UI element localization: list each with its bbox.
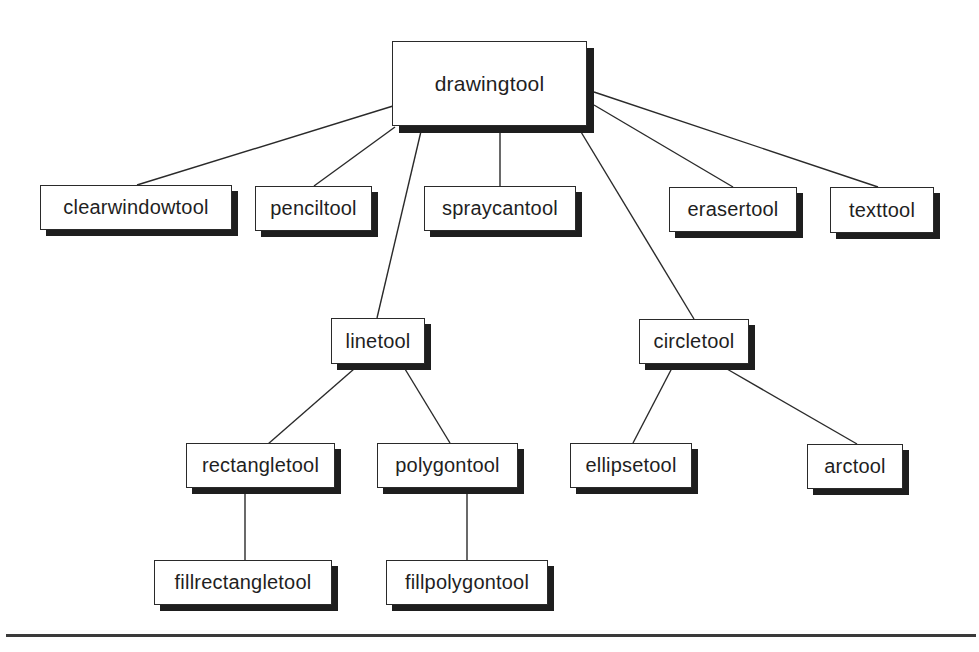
class-hierarchy-diagram: drawingtool clearwindowtool penciltool s… <box>0 0 979 652</box>
node-label: fillrectangletool <box>175 571 312 594</box>
edge-drawingtool-texttool <box>594 92 878 187</box>
node-spraycantool: spraycantool <box>424 186 576 231</box>
node-label: rectangletool <box>202 454 319 477</box>
node-drawingtool: drawingtool <box>392 41 587 126</box>
edge-drawingtool-clearwindowtool <box>137 106 393 185</box>
node-label: drawingtool <box>435 72 545 96</box>
node-label: erasertool <box>688 198 779 221</box>
node-ellipsetool: ellipsetool <box>570 443 692 488</box>
edge-drawingtool-penciltool <box>314 127 395 186</box>
node-label: arctool <box>824 455 885 478</box>
edge-linetool-polygontool <box>405 369 450 443</box>
node-polygontool: polygontool <box>377 443 518 488</box>
edge-circletool-ellipsetool <box>633 368 672 443</box>
node-label: clearwindowtool <box>63 196 208 219</box>
node-linetool: linetool <box>331 318 425 364</box>
node-texttool: texttool <box>830 187 934 233</box>
node-fillrectangletool: fillrectangletool <box>154 560 332 605</box>
edge-drawingtool-erasertool <box>594 105 733 187</box>
node-label: ellipsetool <box>585 454 676 477</box>
node-clearwindowtool: clearwindowtool <box>40 185 232 230</box>
node-label: penciltool <box>270 197 357 220</box>
node-penciltool: penciltool <box>255 186 372 231</box>
node-erasertool: erasertool <box>669 187 797 232</box>
node-label: circletool <box>654 330 735 353</box>
node-circletool: circletool <box>639 319 749 364</box>
node-rectangletool: rectangletool <box>186 443 335 488</box>
node-arctool: arctool <box>807 444 903 489</box>
node-label: linetool <box>346 330 411 353</box>
edge-linetool-rectangletool <box>268 369 354 444</box>
edge-circletool-arctool <box>727 369 857 444</box>
node-fillpolygontool: fillpolygontool <box>386 560 548 605</box>
bottom-rule-divider <box>6 634 976 637</box>
edge-drawingtool-linetool <box>377 127 422 318</box>
node-label: spraycantool <box>442 197 558 220</box>
node-label: polygontool <box>395 454 500 477</box>
node-label: fillpolygontool <box>405 571 529 594</box>
node-label: texttool <box>849 199 915 222</box>
